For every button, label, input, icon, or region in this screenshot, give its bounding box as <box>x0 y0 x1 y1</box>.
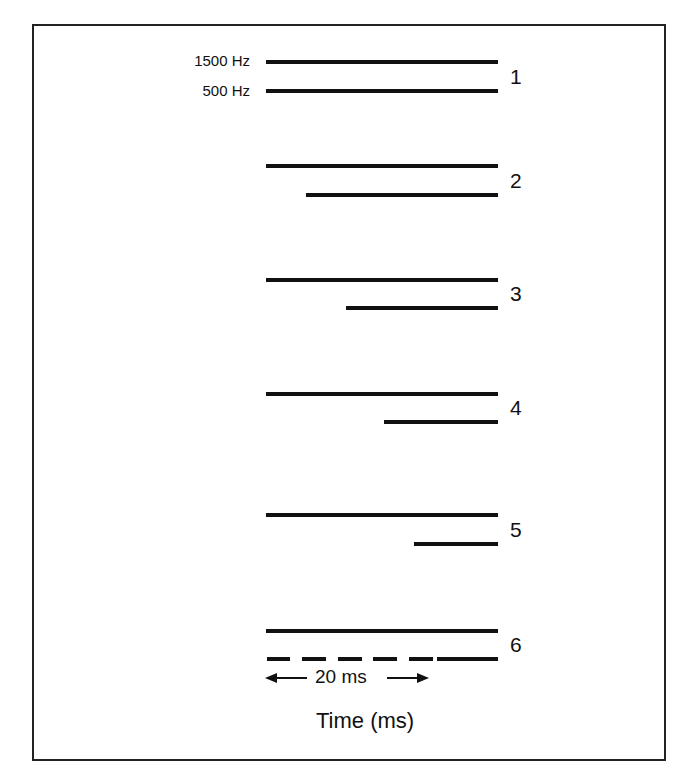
tone-500hz-dash <box>267 657 290 661</box>
x-axis-label: Time (ms) <box>316 708 414 734</box>
tone-500hz-line <box>414 542 498 546</box>
tone-500hz-line <box>346 306 498 310</box>
tone-500hz-dash <box>373 657 397 661</box>
tone-1500hz-line <box>266 164 498 168</box>
condition-number: 6 <box>510 633 522 657</box>
tone-500hz-line <box>266 89 498 93</box>
scale-bar-label: 20 ms <box>315 666 367 688</box>
condition-number: 1 <box>510 65 522 89</box>
tone-1500hz-line <box>266 513 498 517</box>
condition-number: 5 <box>510 518 522 542</box>
condition-number: 4 <box>510 396 522 420</box>
tone-500hz-dash <box>302 657 326 661</box>
scale-bar: 20 ms <box>265 666 435 688</box>
condition-number: 2 <box>510 169 522 193</box>
tone-1500hz-line <box>266 392 498 396</box>
tone-1500hz-line <box>266 278 498 282</box>
tone-500hz-line <box>384 420 498 424</box>
tone-500hz-line <box>306 193 498 197</box>
tone-1500hz-line <box>266 60 498 64</box>
tone-1500hz-line <box>266 629 498 633</box>
tone-500hz-dash <box>338 657 362 661</box>
tone-500hz-dash <box>409 657 433 661</box>
tone-500hz-dash <box>437 657 498 661</box>
freq-label-500: 500 Hz <box>130 82 250 99</box>
condition-number: 3 <box>510 282 522 306</box>
freq-label-1500: 1500 Hz <box>130 52 250 69</box>
